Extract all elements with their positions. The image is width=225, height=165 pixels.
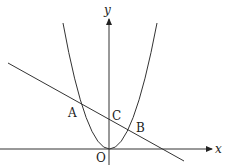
point-b-label: B — [136, 121, 145, 135]
diagram-canvas: y x O A B C — [0, 0, 225, 165]
y-axis-label: y — [103, 3, 111, 17]
origin-label: O — [96, 151, 106, 165]
line-curve — [8, 63, 184, 161]
point-a-label: A — [67, 106, 77, 120]
x-axis-label: x — [215, 142, 222, 156]
point-c-label: C — [112, 109, 121, 123]
